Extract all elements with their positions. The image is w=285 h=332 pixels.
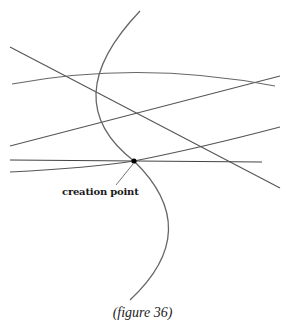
creation-point-label: creation point [62, 186, 139, 197]
rising-upper-line [10, 76, 280, 146]
creation-point-dot [131, 158, 136, 163]
figure-36: creation point (figure 36) [0, 0, 285, 332]
vertical-arc-curve [96, 11, 169, 300]
lower-rising-arc-curve [10, 127, 280, 172]
diagonal-descending-line [10, 47, 280, 188]
leader-line [116, 164, 133, 185]
figure-caption: (figure 36) [0, 305, 285, 321]
upper-shallow-arc-curve [12, 72, 275, 86]
geometric-diagram [0, 0, 285, 332]
